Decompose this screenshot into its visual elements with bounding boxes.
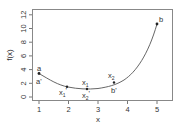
- label-x2: x2: [108, 71, 115, 81]
- x-axis-label: x: [96, 115, 100, 124]
- label-a-prime: a': [36, 77, 42, 86]
- chart: 0 2 4 6 8 10 12 f(x) 1 2 3 4 5 x: [0, 0, 176, 126]
- x-tick-label: 1: [37, 105, 41, 114]
- y-tick-label: 10: [19, 24, 28, 32]
- point-x2: [113, 81, 115, 83]
- label-b: b: [159, 15, 163, 24]
- x-tick-label: 5: [155, 105, 159, 114]
- label-x1: x1: [82, 78, 89, 88]
- y-tick-label: 0: [19, 95, 28, 99]
- y-tick-label: 4: [19, 68, 28, 72]
- y-axis: [29, 15, 32, 97]
- label-x1-prime: x1': [59, 86, 68, 98]
- label-a: a: [37, 64, 42, 73]
- plot-frame: [33, 10, 173, 101]
- y-axis-label: f(x): [5, 49, 14, 61]
- y-tick-label: 6: [19, 54, 28, 58]
- label-x2-prime: x2': [82, 89, 91, 101]
- point-b: [156, 23, 159, 26]
- y-tick-label: 12: [19, 11, 28, 19]
- label-b-prime: b': [111, 86, 117, 95]
- x-tick-label: 2: [66, 105, 70, 114]
- x-tick-label: 3: [96, 105, 100, 114]
- curve-points: [38, 23, 159, 91]
- y-tick-label: 8: [19, 40, 28, 44]
- x-axis: [39, 101, 157, 104]
- x-tick-label: 4: [125, 105, 129, 114]
- function-curve: [39, 24, 157, 89]
- y-tick-label: 2: [19, 81, 28, 85]
